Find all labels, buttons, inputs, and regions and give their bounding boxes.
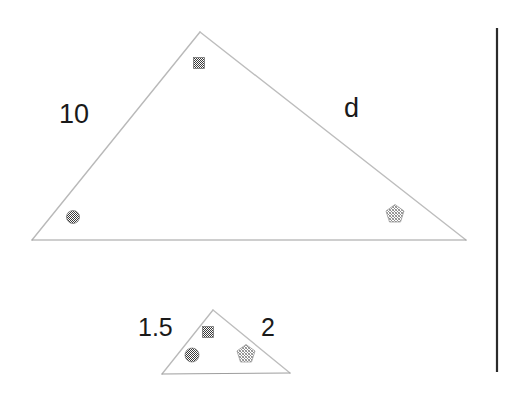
small-triangle-base-edge (162, 373, 290, 374)
small-right-side-label: 2 (261, 315, 275, 340)
bottom-left-circle-marker (67, 211, 80, 224)
geometry-figure (0, 0, 512, 403)
small-triangle-right-edge (213, 310, 290, 373)
small-bottom-right-pentagon-marker (237, 345, 255, 363)
apex-square-marker (194, 58, 205, 69)
figure-canvas: 10 d 1.5 2 (0, 0, 512, 403)
large-right-side-label: d (344, 95, 359, 122)
large-triangle-right-edge (200, 32, 466, 240)
small-bottom-left-circle-marker (185, 348, 199, 362)
small-apex-square-marker (203, 327, 214, 338)
large-triangle-left-edge (32, 32, 200, 240)
large-left-side-label: 10 (59, 101, 89, 128)
large-triangle (32, 32, 466, 240)
small-left-side-label: 1.5 (138, 315, 173, 340)
bottom-right-pentagon-marker (386, 205, 404, 223)
